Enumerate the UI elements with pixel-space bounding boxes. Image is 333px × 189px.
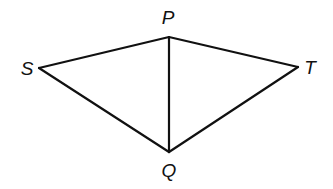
edge-TQ	[169, 67, 298, 152]
edges	[39, 37, 298, 152]
edge-QS	[39, 68, 169, 152]
vertex-label-S: S	[21, 58, 34, 79]
vertex-label-Q: Q	[162, 160, 177, 181]
geometry-diagram: P S T Q	[0, 0, 333, 189]
vertex-label-T: T	[304, 57, 317, 78]
vertex-label-P: P	[162, 7, 175, 28]
edge-SP	[39, 37, 169, 68]
edge-PT	[169, 37, 298, 67]
